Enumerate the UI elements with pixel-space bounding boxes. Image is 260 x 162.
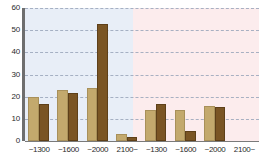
y-tick-label: 60 (12, 4, 21, 12)
bar-light (145, 110, 156, 141)
bars-layer (25, 8, 260, 141)
x-tick-label: ~2000 (87, 145, 108, 154)
y-tick-label: 10 (12, 115, 21, 123)
x-tick-label: ~1300 (146, 145, 167, 154)
bar-dark (127, 137, 138, 141)
bar-light (28, 97, 39, 141)
bar-light (87, 88, 98, 141)
bar-dark (97, 24, 108, 141)
bar-dark (39, 104, 50, 141)
y-tick-label: 30 (12, 71, 21, 79)
axis-baseline (25, 141, 260, 142)
bar-dark (185, 131, 196, 141)
bar-dark (156, 104, 167, 141)
bar-light (116, 134, 127, 141)
bar-light (57, 90, 68, 141)
x-tick-label: ~1600 (58, 145, 79, 154)
x-tick-label: 2100~ (234, 145, 255, 154)
y-axis-labels: 0102030405060 (0, 0, 22, 141)
y-tick-label: 50 (12, 26, 21, 34)
x-tick-label: 2100~ (117, 145, 138, 154)
plot-area (25, 8, 260, 141)
x-tick-label: ~2000 (205, 145, 226, 154)
bar-dark (68, 93, 79, 141)
y-tick-label: 40 (12, 48, 21, 56)
x-tick-label: ~1300 (29, 145, 50, 154)
x-tick-label: ~1600 (175, 145, 196, 154)
bar-light (175, 110, 186, 141)
y-tick-label: 20 (12, 93, 21, 101)
bar-light (204, 106, 215, 141)
bar-chart: 0102030405060 ~1300~1600~20002100~~1300~… (0, 0, 259, 162)
y-tick-label: 0 (16, 137, 20, 145)
x-axis-labels: ~1300~1600~20002100~~1300~1600~20002100~ (25, 145, 260, 159)
bar-dark (215, 107, 226, 141)
